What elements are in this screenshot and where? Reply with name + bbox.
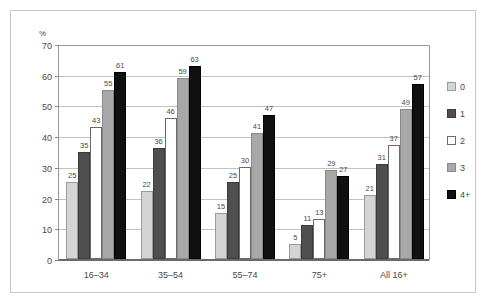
bar-slot: 36 [153, 46, 165, 259]
bar-value-label: 59 [178, 67, 186, 76]
legend-item[interactable]: 2 [447, 127, 487, 154]
bar-slot: 27 [337, 46, 349, 259]
x-axis-category-label: All 16+ [380, 270, 408, 280]
bar[interactable] [251, 133, 263, 259]
legend-item[interactable]: 3 [447, 154, 487, 181]
bar-value-label: 21 [366, 184, 374, 193]
bar-slot: 55 [102, 46, 114, 259]
bar-slot: 59 [177, 46, 189, 259]
x-axis-category-label: 16–34 [84, 270, 109, 280]
bar-slot: 35 [78, 46, 90, 259]
bar-group: 223646596335–54 [133, 46, 207, 259]
legend-item[interactable]: 0 [447, 73, 487, 100]
legend-item-label: 0 [460, 82, 465, 92]
bar[interactable] [301, 225, 313, 259]
bar-value-label: 25 [68, 171, 76, 180]
bar[interactable] [388, 145, 400, 259]
bar-value-label: 11 [303, 214, 311, 223]
bar-value-label: 41 [253, 122, 261, 131]
bar[interactable] [114, 72, 126, 259]
y-axis-tick-label: 10 [42, 225, 52, 235]
bar-slot: 57 [412, 46, 424, 259]
bar[interactable] [364, 195, 376, 260]
bar[interactable] [227, 182, 239, 259]
bar[interactable] [400, 109, 412, 260]
bar[interactable] [337, 176, 349, 259]
bar[interactable] [313, 219, 325, 259]
y-axis-tick-label: 30 [42, 164, 52, 174]
chart-screenshot: % 010203040506070253543556116–3422364659… [0, 0, 488, 304]
bar-value-label: 43 [92, 116, 100, 125]
y-axis-unit-label: % [39, 29, 46, 38]
bar-value-label: 13 [315, 208, 323, 217]
legend-swatch-icon [447, 190, 456, 199]
bar-slot: 11 [301, 46, 313, 259]
bar-value-label: 61 [116, 61, 124, 70]
legend-swatch-icon [447, 82, 456, 91]
bar[interactable] [376, 164, 388, 259]
plot-area: 010203040506070253543556116–342236465963… [58, 45, 430, 260]
bar-value-label: 25 [229, 171, 237, 180]
bar-value-label: 57 [414, 73, 422, 82]
bar-slot: 21 [364, 46, 376, 259]
bar-slot: 30 [239, 46, 251, 259]
y-axis-tick-label: 50 [42, 102, 52, 112]
legend-item-label: 3 [460, 163, 465, 173]
bar-slot: 25 [227, 46, 239, 259]
bar-slot: 49 [400, 46, 412, 259]
bar-slot: 13 [313, 46, 325, 259]
x-axis-category-label: 55–74 [232, 270, 257, 280]
bar[interactable] [325, 170, 337, 259]
chart-outer-frame: % 010203040506070253543556116–3422364659… [10, 10, 476, 293]
bar-slot: 47 [263, 46, 275, 259]
y-axis-tick-label: 60 [42, 72, 52, 82]
bar-slot: 46 [165, 46, 177, 259]
y-axis-tick-label: 20 [42, 195, 52, 205]
bar-slot: 31 [376, 46, 388, 259]
bar-value-label: 30 [241, 156, 249, 165]
bar[interactable] [189, 66, 201, 260]
bar-value-label: 36 [154, 137, 162, 146]
x-axis-category-label: 35–54 [158, 270, 183, 280]
bar[interactable] [263, 115, 275, 259]
bar[interactable] [102, 90, 114, 259]
bar-value-label: 31 [378, 153, 386, 162]
legend-item-label: 1 [460, 109, 465, 119]
x-axis-category-label: 75+ [312, 270, 327, 280]
y-axis-tick-label: 0 [47, 256, 52, 266]
chart-legend: 01234+ [447, 73, 487, 208]
legend-swatch-icon [447, 109, 456, 118]
bar-slot: 41 [251, 46, 263, 259]
legend-item[interactable]: 1 [447, 100, 487, 127]
bar-group: 2131374957All 16+ [357, 46, 431, 259]
bar-group: 253543556116–34 [59, 46, 133, 259]
bar[interactable] [165, 118, 177, 259]
y-axis-tick-label: 40 [42, 133, 52, 143]
bar[interactable] [141, 191, 153, 259]
legend-item[interactable]: 4+ [447, 181, 487, 208]
legend-item-label: 4+ [460, 190, 470, 200]
bar[interactable] [66, 182, 78, 259]
bar-slot: 5 [289, 46, 301, 259]
bar-slot: 25 [66, 46, 78, 259]
bar[interactable] [215, 213, 227, 259]
bar-slot: 43 [90, 46, 102, 259]
legend-swatch-icon [447, 136, 456, 145]
bar-slot: 63 [189, 46, 201, 259]
bar-slot: 15 [215, 46, 227, 259]
bar[interactable] [177, 78, 189, 259]
bar[interactable] [289, 244, 301, 259]
bar-slot: 29 [325, 46, 337, 259]
bar[interactable] [412, 84, 424, 259]
bar[interactable] [153, 148, 165, 259]
bar-value-label: 63 [190, 55, 198, 64]
bar-group: 51113292775+ [282, 46, 356, 259]
bar-value-label: 47 [265, 104, 273, 113]
y-axis-tick [55, 260, 59, 261]
bar-value-label: 49 [402, 98, 410, 107]
bar[interactable] [78, 152, 90, 260]
legend-swatch-icon [447, 163, 456, 172]
legend-item-label: 2 [460, 136, 465, 146]
bar[interactable] [90, 127, 102, 259]
bar[interactable] [239, 167, 251, 259]
